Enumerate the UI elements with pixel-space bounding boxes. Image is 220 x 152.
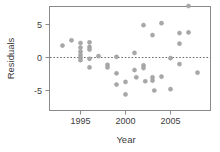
data-point <box>114 82 118 86</box>
residuals-scatter-chart: 5 0 -5 1995 2000 2005 Year Residuals <box>0 0 220 152</box>
data-point <box>150 33 154 37</box>
data-point <box>69 38 73 42</box>
data-point <box>78 41 82 45</box>
data-point <box>60 44 64 48</box>
data-point <box>105 65 109 69</box>
data-point <box>123 92 127 96</box>
data-point <box>177 62 181 66</box>
x-tick-label: 2000 <box>115 116 135 126</box>
data-point <box>141 23 145 27</box>
data-point <box>123 80 127 84</box>
data-point <box>159 75 163 79</box>
data-point <box>152 88 156 92</box>
data-point <box>114 55 118 59</box>
data-point <box>195 71 199 75</box>
data-point <box>132 51 136 55</box>
data-point <box>114 71 118 75</box>
data-point <box>132 68 136 72</box>
data-point <box>141 66 145 70</box>
chart-background <box>0 0 220 152</box>
x-tick-label: 1995 <box>70 116 90 126</box>
data-point <box>186 4 190 8</box>
data-point <box>134 75 138 79</box>
data-point <box>78 58 82 62</box>
data-point <box>177 42 181 46</box>
y-tick-label: 5 <box>37 20 42 30</box>
data-point <box>78 46 82 50</box>
chart-canvas: 5 0 -5 1995 2000 2005 Year Residuals <box>0 0 220 152</box>
data-point <box>87 47 91 51</box>
data-point <box>96 54 100 58</box>
data-point <box>159 21 163 25</box>
x-axis-title: Year <box>116 134 135 145</box>
x-tick-label: 2005 <box>160 116 180 126</box>
data-point <box>177 31 181 35</box>
data-point <box>143 79 147 83</box>
data-point <box>87 65 91 69</box>
data-point <box>168 56 172 60</box>
data-point <box>186 30 190 34</box>
y-tick-label: 0 <box>37 53 42 63</box>
y-axis-title: Residuals <box>5 37 16 79</box>
y-tick-label: -5 <box>34 86 42 96</box>
data-point <box>87 40 91 44</box>
data-point <box>150 79 154 83</box>
data-point <box>87 57 91 61</box>
data-point <box>168 87 172 91</box>
